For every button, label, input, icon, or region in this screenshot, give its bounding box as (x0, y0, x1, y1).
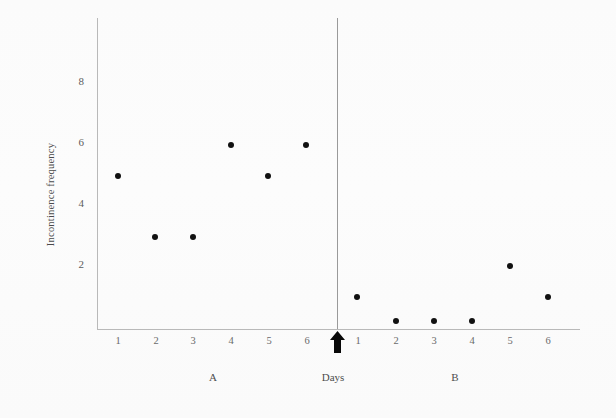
chart-figure: Incontinence frequency 8 6 4 2 1 2 3 4 5… (0, 0, 616, 418)
data-point-a-6 (303, 142, 309, 148)
x-tick-label-a-1: 1 (107, 335, 129, 346)
phase-b-label: B (425, 371, 485, 383)
x-tick-label-b-4: 4 (461, 335, 483, 346)
data-point-a-2 (152, 234, 158, 240)
y-tick-label-2: 2 (62, 258, 84, 270)
x-axis-line (97, 329, 580, 330)
x-tick-label-b-3: 3 (423, 335, 445, 346)
data-point-a-3 (190, 234, 196, 240)
data-point-b-2 (393, 318, 399, 324)
data-point-b-4 (469, 318, 475, 324)
x-tick-label-b-2: 2 (385, 335, 407, 346)
phase-divider-line (337, 18, 338, 329)
up-arrow-icon (330, 331, 345, 353)
x-tick-label-a-2: 2 (145, 335, 167, 346)
x-tick-label-a-3: 3 (182, 335, 204, 346)
phase-a-label: A (183, 371, 243, 383)
data-point-b-6 (545, 294, 551, 300)
x-tick-label-b-6: 6 (537, 335, 559, 346)
data-point-b-1 (354, 294, 360, 300)
data-point-a-5 (265, 173, 271, 179)
data-point-a-4 (228, 142, 234, 148)
x-tick-label-b-5: 5 (499, 335, 521, 346)
y-tick-label-4: 4 (62, 197, 84, 209)
y-axis-line (97, 18, 98, 329)
y-tick-label-8: 8 (62, 75, 84, 87)
x-axis-title: Days (303, 371, 363, 383)
y-tick-label-6: 6 (62, 136, 84, 148)
data-point-b-3 (431, 318, 437, 324)
y-axis-label: Incontinence frequency (45, 100, 56, 290)
data-point-a-1 (115, 173, 121, 179)
x-tick-label-a-5: 5 (258, 335, 280, 346)
data-point-b-5 (507, 263, 513, 269)
x-tick-label-b-1: 1 (347, 335, 369, 346)
plot-area: Incontinence frequency 8 6 4 2 1 2 3 4 5… (0, 0, 616, 418)
x-tick-label-a-4: 4 (220, 335, 242, 346)
x-tick-label-a-6: 6 (296, 335, 318, 346)
